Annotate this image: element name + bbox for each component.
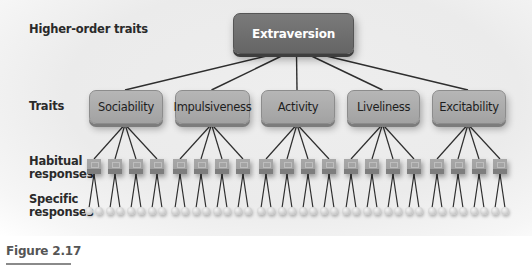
connector-line: [437, 174, 442, 208]
connector-line: [266, 174, 271, 208]
node-specific-response: [373, 207, 381, 215]
habitual-box-inset: [198, 162, 206, 168]
node-habitual-response: [129, 159, 143, 174]
node-specific-response: [158, 207, 166, 215]
connector-line: [351, 174, 356, 208]
node-habitual-response: [215, 159, 229, 174]
node-habitual-response: [451, 159, 465, 174]
node-trait-activity: Activity: [261, 90, 335, 124]
connector-line: [318, 54, 468, 90]
connector-line: [307, 54, 382, 90]
node-specific-response: [299, 207, 307, 215]
connector-line: [175, 174, 180, 208]
connector-line: [297, 54, 298, 90]
node-habitual-response: [322, 159, 336, 174]
habitual-box-inset: [263, 162, 271, 168]
connector-line: [217, 174, 222, 208]
habitual-box-inset: [112, 162, 120, 168]
connector-line: [125, 54, 275, 90]
node-habitual-response: [386, 159, 400, 174]
node-specific-response: [127, 207, 135, 215]
connector-line: [437, 126, 467, 159]
habitual-box-inset: [177, 162, 185, 168]
habitual-box-inset: [476, 162, 484, 168]
connector-line: [110, 174, 115, 208]
connector-line: [409, 174, 414, 208]
connector-line: [324, 174, 329, 208]
node-specific-response: [116, 207, 124, 215]
connector-line: [115, 174, 120, 208]
node-specific-response: [491, 207, 499, 215]
node-specific-response: [106, 207, 114, 215]
node-specific-response: [415, 207, 423, 215]
node-specific-response: [171, 207, 179, 215]
connector-line: [453, 174, 458, 208]
node-habitual-response: [194, 159, 208, 174]
node-specific-response: [470, 207, 478, 215]
connector-line: [201, 174, 206, 208]
node-habitual-response: [173, 159, 187, 174]
connector-line: [432, 174, 437, 208]
connector-line: [308, 174, 313, 208]
node-specific-response: [449, 207, 457, 215]
connector-line: [458, 174, 463, 208]
connector-line: [414, 174, 419, 208]
figure-label: Figure 2.17: [6, 244, 81, 258]
node-habitual-response: [407, 159, 421, 174]
connector-line: [367, 174, 372, 208]
node-habitual-response: [108, 159, 122, 174]
node-specific-response: [278, 207, 286, 215]
node-specific-response: [148, 207, 156, 215]
connector-line: [89, 174, 94, 208]
connector-line: [495, 174, 500, 208]
node-habitual-response: [344, 159, 358, 174]
connector-line: [136, 174, 141, 208]
connector-line: [222, 174, 227, 208]
node-habitual-response: [87, 159, 101, 174]
node-specific-response: [244, 207, 252, 215]
node-specific-response: [257, 207, 265, 215]
node-habitual-response: [150, 159, 164, 174]
node-habitual-response: [259, 159, 273, 174]
habitual-box-inset: [154, 162, 162, 168]
node-trait-excitability: Excitability: [432, 90, 506, 124]
connector-line: [282, 174, 287, 208]
habitual-box-inset: [369, 162, 377, 168]
habitual-box-inset: [497, 162, 505, 168]
connector-line: [180, 174, 185, 208]
node-habitual-response: [493, 159, 507, 174]
node-specific-response: [342, 207, 350, 215]
node-extraversion: Extraversion: [233, 13, 354, 54]
habitual-box-inset: [348, 162, 356, 168]
node-habitual-response: [236, 159, 250, 174]
connector-line: [94, 126, 124, 159]
node-specific-response: [309, 207, 317, 215]
habitual-box-inset: [305, 162, 313, 168]
node-habitual-response: [280, 159, 294, 174]
node-specific-response: [320, 207, 328, 215]
node-specific-response: [363, 207, 371, 215]
node-specific-response: [223, 207, 231, 215]
connector-line: [500, 174, 505, 208]
node-habitual-response: [430, 159, 444, 174]
node-specific-response: [137, 207, 145, 215]
habitual-box-inset: [91, 162, 99, 168]
node-specific-response: [288, 207, 296, 215]
node-specific-response: [480, 207, 488, 215]
node-specific-response: [438, 207, 446, 215]
connector-line: [157, 174, 162, 208]
connector-line: [346, 174, 351, 208]
habitual-box-inset: [326, 162, 334, 168]
habitual-box-inset: [219, 162, 227, 168]
connector-line: [388, 174, 393, 208]
node-habitual-response: [472, 159, 486, 174]
node-specific-response: [234, 207, 242, 215]
habitual-box-inset: [434, 162, 442, 168]
connector-line: [266, 126, 296, 159]
node-specific-response: [394, 207, 402, 215]
habitual-box-inset: [133, 162, 141, 168]
habitual-box-inset: [411, 162, 419, 168]
node-specific-response: [192, 207, 200, 215]
node-specific-response: [459, 207, 467, 215]
node-trait-liveliness: Liveliness: [347, 90, 420, 124]
